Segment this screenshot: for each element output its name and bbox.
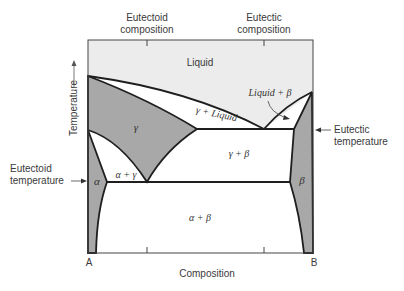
eutectic-temperature-label-1: Eutectic	[334, 124, 370, 135]
alpha-label: α	[94, 175, 100, 187]
phase-diagram: Eutectoid composition Eutectic compositi…	[0, 0, 404, 291]
temperature-arrow-icon	[72, 60, 77, 66]
eutectoid-composition-label-2: composition	[120, 24, 173, 35]
temperature-axis-label: Temperature	[68, 79, 79, 136]
eutectic-temperature-label-2: temperature	[334, 136, 388, 147]
alpha-gamma-label: α + γ	[116, 169, 138, 180]
eutectic-temperature-arrow-icon	[315, 128, 321, 133]
gamma-label: γ	[134, 121, 139, 133]
eutectoid-composition-label-1: Eutectoid	[126, 12, 168, 23]
eutectic-composition-label-1: Eutectic	[246, 12, 282, 23]
composition-axis-label: Composition	[179, 268, 235, 279]
component-b-label: B	[311, 257, 318, 268]
alpha-beta-label: α + β	[189, 212, 211, 223]
gamma-beta-label: γ + β	[229, 148, 250, 159]
component-a-label: A	[86, 257, 93, 268]
eutectoid-temperature-arrow-icon	[81, 179, 87, 184]
beta-label: β	[298, 174, 305, 186]
eutectic-composition-label-2: composition	[237, 24, 290, 35]
eutectoid-temperature-label-1: Eutectoid	[10, 163, 52, 174]
liquid-beta-label: Liquid + β	[248, 87, 292, 98]
liquid-label: Liquid	[187, 57, 214, 68]
eutectoid-temperature-label-2: temperature	[10, 175, 64, 186]
